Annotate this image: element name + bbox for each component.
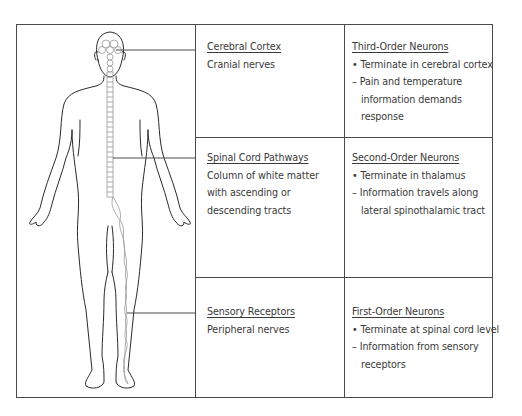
bullet-marker: •	[352, 324, 358, 335]
peripheral-nerve-icon	[112, 197, 128, 384]
cell-text: Peripheral nerves	[207, 321, 295, 339]
spinal-cord-icon	[107, 72, 113, 197]
column-divider-1	[195, 24, 196, 398]
bullet-text: Terminate in thalamus	[361, 170, 466, 181]
dash-text: Information travels along	[360, 187, 479, 198]
cell-text: Column of white matter	[207, 167, 319, 185]
cell-title: Sensory Receptors	[207, 303, 295, 321]
dash-text: Pain and temperature	[360, 76, 462, 87]
third-order-neurons-cell: Third-Order Neurons • Terminate in cereb…	[352, 38, 493, 126]
dash-line: – Information from sensory	[352, 338, 499, 356]
spinal-cord-pathways-cell: Spinal Cord Pathways Column of white mat…	[207, 149, 319, 219]
cell-text: Cranial nerves	[207, 56, 281, 74]
column-divider-2	[344, 24, 345, 398]
dash-text: Information from sensory	[360, 341, 479, 352]
second-order-neurons-cell: Second-Order Neurons • Terminate in thal…	[352, 149, 485, 219]
body-outline-icon	[30, 32, 191, 388]
cell-title: Second-Order Neurons	[352, 149, 485, 167]
row-divider-2	[195, 277, 493, 278]
continuation-line: receptors	[352, 356, 499, 374]
bullet-marker: •	[352, 59, 358, 70]
bullet-line: • Terminate in cerebral cortex	[352, 56, 493, 74]
bullet-line: • Terminate at spinal cord level	[352, 321, 499, 339]
first-order-neurons-cell: First-Order Neurons • Terminate at spina…	[352, 303, 499, 373]
cell-text: with ascending or	[207, 184, 319, 202]
continuation-line: lateral spinothalamic tract	[352, 202, 485, 220]
cell-title: First-Order Neurons	[352, 303, 499, 321]
dash-marker: –	[352, 341, 357, 352]
dash-line: – Pain and temperature	[352, 73, 493, 91]
bullet-text: Terminate in cerebral cortex	[361, 59, 493, 70]
cell-title: Third-Order Neurons	[352, 38, 493, 56]
continuation-line: information demands	[352, 91, 493, 109]
dash-marker: –	[352, 187, 357, 198]
cell-text: descending tracts	[207, 202, 319, 220]
bullet-marker: •	[352, 170, 358, 181]
bullet-line: • Terminate in thalamus	[352, 167, 485, 185]
sensory-receptors-cell: Sensory Receptors Peripheral nerves	[207, 303, 295, 338]
bullet-text: Terminate at spinal cord level	[361, 324, 500, 335]
cell-title: Cerebral Cortex	[207, 38, 281, 56]
cell-title: Spinal Cord Pathways	[207, 149, 319, 167]
dash-marker: –	[352, 76, 357, 87]
dash-line: – Information travels along	[352, 184, 485, 202]
continuation-line: response	[352, 108, 493, 126]
brain-nodes-icon	[99, 40, 122, 72]
human-body-figure	[16, 24, 195, 398]
cerebral-cortex-cell: Cerebral Cortex Cranial nerves	[207, 38, 281, 73]
row-divider-1	[195, 137, 493, 138]
